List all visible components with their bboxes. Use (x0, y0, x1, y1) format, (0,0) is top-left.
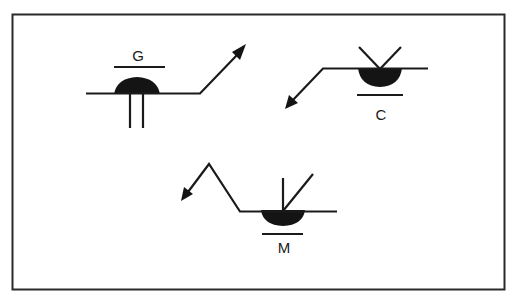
bevel-mark-diagonal (283, 174, 313, 211)
finish-letter-g: G (132, 47, 144, 64)
finish-letter-m: M (278, 239, 291, 256)
reference-line-and-leader (86, 54, 238, 94)
weld-symbol-m: M (181, 164, 337, 256)
reference-line-and-leader (188, 164, 337, 212)
groove-mark-left (359, 47, 380, 69)
weld-symbol-g: G (86, 44, 246, 128)
groove-mark-right (380, 47, 401, 69)
bead-below (358, 68, 402, 87)
weld-symbols-diagram: G C M (0, 0, 512, 301)
finish-letter-c: C (376, 106, 387, 123)
convex-bead (114, 77, 160, 94)
weld-symbol-c: C (285, 47, 428, 123)
diagram-frame (13, 15, 505, 290)
